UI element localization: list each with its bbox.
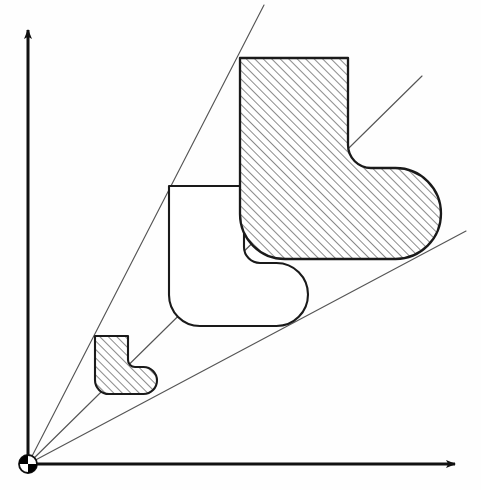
- origin-marker: [19, 455, 37, 473]
- origin-quadrant-bottom-right: [28, 464, 37, 473]
- large-boot-group: [230, 45, 455, 275]
- homothety-drawing: [0, 0, 481, 490]
- figure-canvas: [0, 0, 481, 490]
- large-boot-hatching: [230, 45, 455, 275]
- origin-quadrant-top-left: [19, 455, 28, 464]
